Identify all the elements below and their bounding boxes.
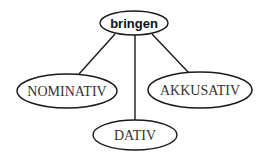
node-dativ: DATIV bbox=[93, 120, 177, 150]
root-label: bringen bbox=[110, 16, 158, 31]
nominativ-label: NOMINATIV bbox=[27, 84, 106, 99]
node-nominativ: NOMINATIV bbox=[17, 74, 117, 108]
node-akkusativ: AKKUSATIV bbox=[148, 72, 252, 108]
akkusativ-label: AKKUSATIV bbox=[160, 83, 240, 98]
valency-diagram: bringen NOMINATIV AKKUSATIV DATIV bbox=[0, 0, 265, 159]
node-root: bringen bbox=[100, 11, 168, 35]
edge-bringen-akkusativ bbox=[152, 34, 189, 73]
dativ-label: DATIV bbox=[114, 128, 156, 143]
edge-bringen-nominativ bbox=[79, 34, 115, 74]
